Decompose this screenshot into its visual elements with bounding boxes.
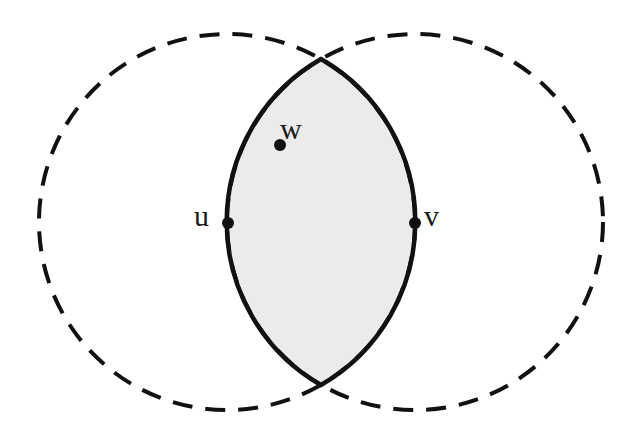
lens-diagram: u v w [0, 0, 638, 436]
label-w: w [280, 112, 302, 145]
lens-region [227, 59, 416, 385]
label-v: v [424, 199, 439, 232]
point-v [409, 217, 421, 229]
label-u: u [194, 199, 209, 232]
point-u [222, 217, 234, 229]
